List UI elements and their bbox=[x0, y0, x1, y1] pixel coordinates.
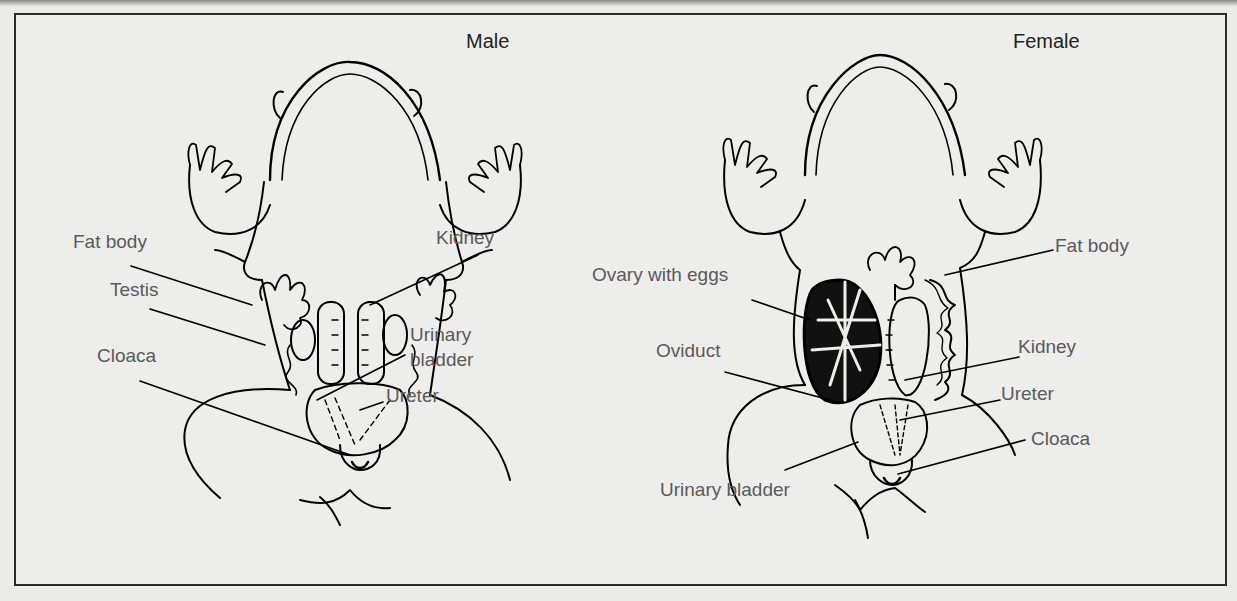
male-label-ureter: Ureter bbox=[386, 386, 439, 407]
female-label-ovary: Ovary with eggs bbox=[592, 265, 728, 286]
male-panel-title: Male bbox=[466, 30, 509, 52]
female-label-cloaca: Cloaca bbox=[1031, 429, 1090, 450]
female-label-fat-body: Fat body bbox=[1055, 236, 1129, 257]
male-label-kidney: Kidney bbox=[436, 228, 494, 249]
male-label-urinary-bladder-line2: bladder bbox=[410, 350, 473, 371]
female-frog-drawing bbox=[723, 55, 1041, 538]
male-label-testis: Testis bbox=[110, 280, 159, 301]
male-label-fat-body: Fat body bbox=[73, 232, 147, 253]
female-label-kidney: Kidney bbox=[1018, 337, 1076, 358]
male-label-urinary-bladder-line1: Urinary bbox=[410, 325, 471, 346]
female-label-oviduct: Oviduct bbox=[656, 341, 720, 362]
male-frog-drawing bbox=[184, 62, 521, 525]
female-label-ureter: Ureter bbox=[1001, 384, 1054, 405]
frog-anatomy-illustration bbox=[0, 0, 1237, 601]
female-label-urinary-bladder: Urinary bladder bbox=[660, 480, 790, 501]
female-panel-title: Female bbox=[1013, 30, 1080, 52]
male-label-cloaca: Cloaca bbox=[97, 346, 156, 367]
